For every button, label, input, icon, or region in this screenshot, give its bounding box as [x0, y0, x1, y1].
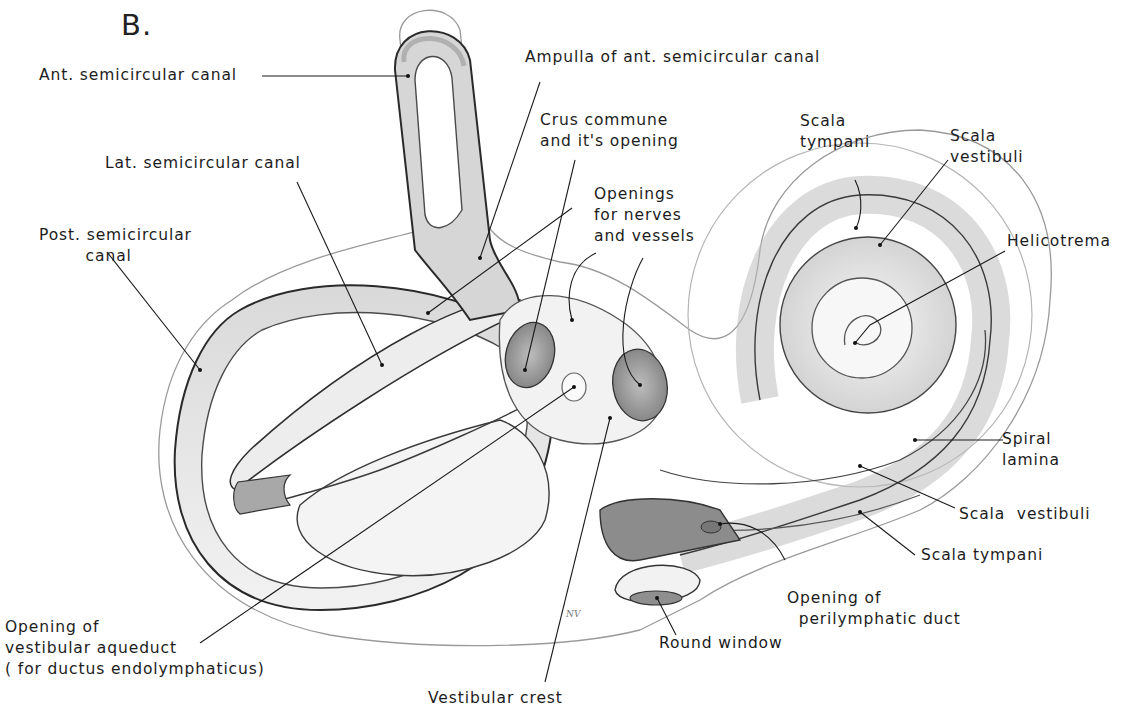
- label-crus-commune: Crus commune and it's opening: [540, 110, 679, 152]
- label-vestibular-crest: Vestibular crest: [428, 688, 563, 709]
- label-opening-perilymphatic-duct: Opening of perilymphatic duct: [787, 588, 961, 630]
- label-scala-tympani-bottom: Scala tympani: [921, 545, 1043, 566]
- label-scala-vestibuli-top: Scala vestibuli: [950, 126, 1024, 168]
- figure-letter: B.: [121, 8, 152, 42]
- ant-semicircular-canal: [395, 31, 520, 320]
- label-opening-vestibular-aqueduct: Opening of vestibular aqueduct ( for duc…: [5, 617, 265, 680]
- label-openings-nerves-vessels: Openings for nerves and vessels: [594, 184, 695, 247]
- label-scala-vestibuli-bottom: Scala vestibuli: [959, 504, 1090, 525]
- label-helicotrema: Helicotrema: [1007, 231, 1111, 252]
- artist-signature: NV: [566, 609, 580, 619]
- cochlea: [640, 143, 1032, 555]
- label-spiral-lamina: Spiral lamina: [1002, 429, 1060, 471]
- label-post-semicircular-canal: Post. semicircular canal: [39, 225, 192, 267]
- perilymphatic-duct-opening: [701, 521, 721, 533]
- label-lat-semicircular-canal: Lat. semicircular canal: [105, 153, 301, 174]
- label-round-window: Round window: [659, 633, 783, 654]
- label-ampulla-ant-semicircular-canal: Ampulla of ant. semicircular canal: [525, 47, 820, 68]
- label-scala-tympani-top: Scala tympani: [800, 111, 870, 153]
- label-ant-semicircular-canal: Ant. semicircular canal: [39, 65, 237, 86]
